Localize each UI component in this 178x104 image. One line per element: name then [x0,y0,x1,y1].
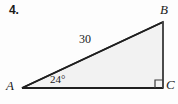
vertex-label-a: A [6,79,14,92]
problem-number-label: 4. [9,4,19,16]
vertex-label-b: B [160,3,168,16]
triangle-drawing [0,0,178,104]
hypotenuse-length-label: 30 [79,33,91,45]
vertex-label-c: C [166,78,175,91]
angle-measure-label: 24° [50,74,65,85]
geometry-figure: 4. A B C 30 24° [0,0,178,104]
